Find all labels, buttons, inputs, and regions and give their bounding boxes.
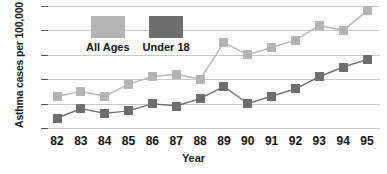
x-axis-tick-label: 89	[211, 134, 237, 148]
y-axis-title: Asthma cases per 100,000	[13, 8, 25, 128]
data-point-marker	[148, 99, 157, 108]
data-point-marker	[339, 26, 348, 35]
data-point-marker	[243, 99, 252, 108]
y-axis-tick	[41, 6, 48, 7]
data-point-marker	[76, 87, 85, 96]
x-axis-tick-label: 86	[139, 134, 165, 148]
data-point-marker	[291, 84, 300, 93]
data-point-marker	[100, 109, 109, 118]
data-point-marker	[315, 21, 324, 30]
data-point-marker	[243, 50, 252, 59]
legend-swatch-under-18	[149, 16, 183, 38]
legend-label: All Ages	[86, 41, 130, 53]
x-axis-tick-label: 83	[68, 134, 94, 148]
x-axis-tick-label: 94	[330, 134, 356, 148]
data-point-marker	[53, 92, 62, 101]
y-axis-tick	[41, 128, 48, 129]
y-axis-tick	[41, 104, 48, 105]
data-point-marker	[219, 38, 228, 47]
data-point-marker	[196, 94, 205, 103]
gridline	[48, 128, 380, 129]
x-axis-title: Year	[0, 152, 387, 164]
x-axis-tick-label: 95	[354, 134, 380, 148]
data-point-marker	[315, 72, 324, 81]
data-point-marker	[339, 63, 348, 72]
data-point-marker	[196, 75, 205, 84]
data-point-marker	[53, 114, 62, 123]
data-point-marker	[363, 6, 372, 15]
x-axis-tick-label: 87	[163, 134, 189, 148]
x-axis-tick-label: 84	[92, 134, 118, 148]
data-point-marker	[124, 106, 133, 115]
asthma-cases-line-chart: Asthma cases per 100,000 807060504030 82…	[0, 0, 387, 174]
y-axis-tick	[41, 30, 48, 31]
data-point-marker	[100, 92, 109, 101]
legend-swatch-all-ages	[91, 16, 125, 38]
data-point-marker	[267, 43, 276, 52]
data-point-marker	[363, 55, 372, 64]
data-point-marker	[219, 82, 228, 91]
data-point-marker	[76, 104, 85, 113]
chart-legend: All AgesUnder 18	[86, 16, 190, 53]
legend-item: Under 18	[143, 16, 190, 53]
x-axis-tick-label: 85	[116, 134, 142, 148]
legend-item: All Ages	[86, 16, 130, 53]
x-axis-tick-label: 93	[306, 134, 332, 148]
data-point-marker	[172, 70, 181, 79]
x-axis-tick-label: 92	[282, 134, 308, 148]
data-point-marker	[124, 80, 133, 89]
x-axis-tick-label: 88	[187, 134, 213, 148]
data-point-marker	[148, 72, 157, 81]
data-point-marker	[172, 102, 181, 111]
y-axis-tick	[41, 79, 48, 80]
x-axis-tick-label: 90	[235, 134, 261, 148]
legend-label: Under 18	[143, 41, 190, 53]
data-point-marker	[267, 92, 276, 101]
x-axis-tick-label: 91	[259, 134, 285, 148]
data-point-marker	[291, 36, 300, 45]
x-axis-tick-label: 82	[44, 134, 70, 148]
y-axis-tick	[41, 55, 48, 56]
